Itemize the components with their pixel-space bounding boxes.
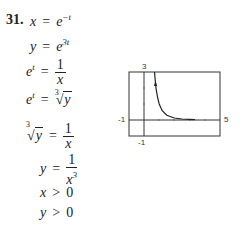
curve-y-inverse-x-cubed — [155, 72, 196, 120]
xmax-label: 5 — [224, 115, 228, 124]
graph-frame — [129, 72, 220, 136]
ymax-label: 3 — [142, 62, 146, 71]
ymin-label: -1 — [138, 138, 145, 147]
direction-arrow-icon — [154, 81, 157, 86]
xmin-label: -1 — [118, 115, 125, 124]
